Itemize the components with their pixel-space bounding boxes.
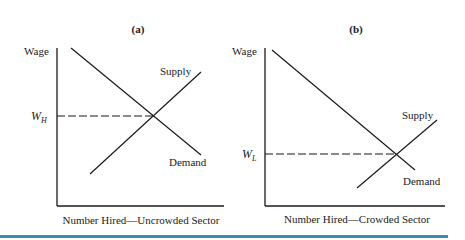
labor-market-diagram: (a) Wage WH Supply Demand Number Hired—U…	[0, 0, 465, 240]
panel-a-wage-label: WH	[31, 109, 48, 125]
panel-a: (a) Wage WH Supply Demand Number Hired—U…	[24, 23, 224, 226]
panel-a-xlabel: Number Hired—Uncrowded Sector	[62, 214, 219, 226]
panel-b-wage-label: WL	[242, 147, 257, 163]
panel-a-title: (a)	[132, 23, 145, 36]
panel-a-ylabel: Wage	[24, 45, 49, 57]
panel-b: (b) Wage WL Supply Demand Number Hired—C…	[232, 23, 445, 225]
panel-b-title: (b)	[349, 23, 363, 36]
panel-b-ylabel: Wage	[232, 45, 257, 57]
panel-b-demand-curve	[272, 50, 415, 170]
panel-a-demand-label: Demand	[169, 156, 207, 168]
panel-a-supply-label: Supply	[160, 65, 192, 77]
bottom-rule	[0, 235, 448, 238]
panel-b-demand-label: Demand	[403, 175, 441, 187]
panel-b-supply-label: Supply	[402, 109, 434, 121]
panel-b-xlabel: Number Hired—Crowded Sector	[284, 213, 430, 225]
